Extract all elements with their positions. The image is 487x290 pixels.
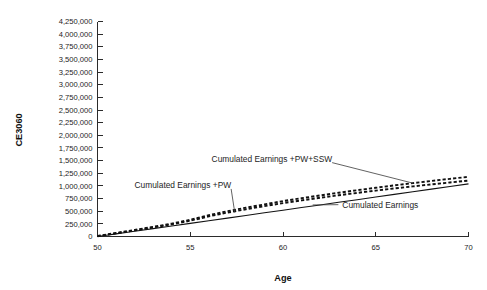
y-tick-label: 1,250,000 — [59, 169, 93, 178]
y-tick-label: 3,250,000 — [59, 68, 93, 77]
y-tick-label: 4,250,000 — [59, 17, 93, 26]
series-label: Cumulated Earnings +PW+SSW — [212, 154, 333, 164]
y-tick-label: 3,750,000 — [59, 42, 93, 51]
series-label: Cumulated Earnings — [342, 200, 418, 210]
y-tick-label: 2,750,000 — [59, 93, 93, 102]
y-tick-label: 1,750,000 — [59, 144, 93, 153]
y-tick-label: 2,500,000 — [59, 106, 93, 115]
y-tick-label: 2,000,000 — [59, 131, 93, 140]
y-tick-label: 3,000,000 — [59, 80, 93, 89]
series-label: Cumulated Earnings +PW — [135, 180, 232, 190]
y-axis-title: CE3060 — [14, 113, 24, 146]
y-tick-label: 0 — [88, 232, 92, 241]
y-tick-label: 4,000,000 — [59, 30, 93, 39]
x-tick-label: 50 — [93, 243, 101, 252]
x-tick-label: 65 — [372, 243, 380, 252]
cumulated-earnings-line-chart: CE3060 Age 4,250,0004,000,0003,750,0003,… — [0, 0, 487, 290]
y-tick-label: 1,000,000 — [59, 182, 93, 191]
y-tick-label: 2,250,000 — [59, 118, 93, 127]
x-axis-title: Age — [274, 273, 291, 283]
y-tick-label: 500,000 — [65, 207, 92, 216]
y-tick-label: 250,000 — [65, 220, 92, 229]
chart-container: CE3060 Age 4,250,0004,000,0003,750,0003,… — [0, 0, 487, 290]
y-tick-label: 1,500,000 — [59, 156, 93, 165]
y-tick-label: 3,500,000 — [59, 55, 93, 64]
x-tick-label: 60 — [279, 243, 287, 252]
x-tick-label: 70 — [464, 243, 472, 252]
x-tick-label: 55 — [186, 243, 194, 252]
y-tick-label: 750,000 — [65, 194, 92, 203]
